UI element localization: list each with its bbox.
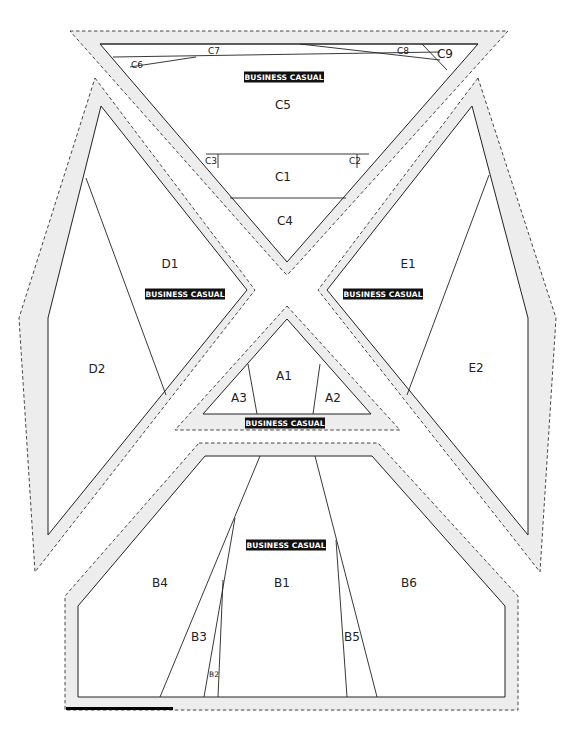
business-casual-tag: BUSINESS CASUAL	[244, 72, 324, 83]
piece-label-e1: E1	[400, 257, 415, 271]
business-casual-tag: BUSINESS CASUAL	[343, 289, 423, 300]
scale-bar	[66, 707, 173, 710]
tag-text: BUSINESS CASUAL	[245, 419, 324, 428]
tag-text: BUSINESS CASUAL	[246, 541, 325, 550]
pattern-piece-b	[78, 456, 505, 697]
business-casual-tag: BUSINESS CASUAL	[246, 540, 326, 551]
piece-label-b3: B3	[191, 630, 207, 644]
piece-label-c2: C2	[349, 156, 361, 166]
piece-label-a2: A2	[325, 391, 341, 405]
piece-label-b1: B1	[274, 576, 290, 590]
tag-text: BUSINESS CASUAL	[145, 290, 224, 299]
piece-label-c1: C1	[275, 170, 291, 184]
business-casual-tag: BUSINESS CASUAL	[145, 289, 225, 300]
piece-label-b2: B2	[209, 670, 219, 679]
piece-label-c4: C4	[277, 214, 293, 228]
piece-label-a1: A1	[276, 369, 292, 383]
piece-label-a3: A3	[231, 391, 247, 405]
piece-label-c5: C5	[275, 98, 291, 112]
piece-label-c9: C9	[437, 47, 453, 61]
piece-label-c3: C3	[205, 156, 217, 166]
tag-text: BUSINESS CASUAL	[343, 290, 422, 299]
piece-label-d1: D1	[162, 257, 179, 271]
pattern-layout: BUSINESS CASUALBUSINESS CASUALBUSINESS C…	[0, 0, 573, 738]
piece-label-c6: C6	[131, 60, 143, 70]
tag-text: BUSINESS CASUAL	[244, 73, 323, 82]
piece-label-c8: C8	[397, 46, 409, 56]
piece-label-b4: B4	[152, 576, 168, 590]
piece-label-d2: D2	[89, 362, 106, 376]
piece-label-b5: B5	[344, 630, 360, 644]
piece-label-b6: B6	[401, 576, 417, 590]
pattern-piece-a	[203, 319, 371, 414]
business-casual-tag: BUSINESS CASUAL	[245, 418, 325, 429]
piece-label-e2: E2	[468, 361, 483, 375]
piece-label-c7: C7	[208, 46, 220, 56]
